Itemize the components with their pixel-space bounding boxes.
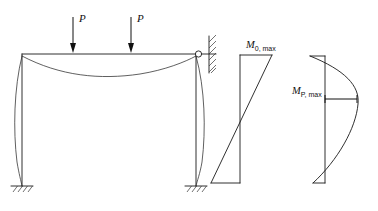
beam-deflection-curve — [22, 56, 196, 77]
load-label-1: P — [78, 12, 86, 24]
load-arrow-head-1 — [70, 43, 76, 53]
deflected-shape — [15, 56, 205, 186]
load-group-2: P — [128, 12, 144, 53]
load-arrow-head-2 — [128, 43, 134, 53]
load-label-2: P — [136, 12, 144, 24]
pin-connection-node — [195, 51, 201, 57]
figure-canvas: P P — [0, 0, 378, 211]
left-column-deflection-curve — [15, 56, 22, 186]
undeformed-frame — [22, 54, 196, 186]
mp-label: MP, max — [291, 85, 322, 98]
left-support-hatching — [13, 186, 33, 192]
m0-label: M0, max — [245, 39, 276, 52]
load-group-1: P — [70, 12, 86, 53]
mp-parabola-curve — [310, 56, 358, 183]
moment-diagram-m0: M0, max — [211, 39, 276, 183]
left-fixed-support — [11, 186, 33, 192]
structural-figure: P P — [0, 0, 378, 211]
m0-diagonal — [211, 55, 272, 183]
right-fixed-support — [185, 186, 207, 192]
right-support-hatching — [187, 186, 207, 192]
right-column-deflection-curve — [196, 56, 204, 186]
moment-diagram-mp: MP, max — [291, 56, 358, 183]
